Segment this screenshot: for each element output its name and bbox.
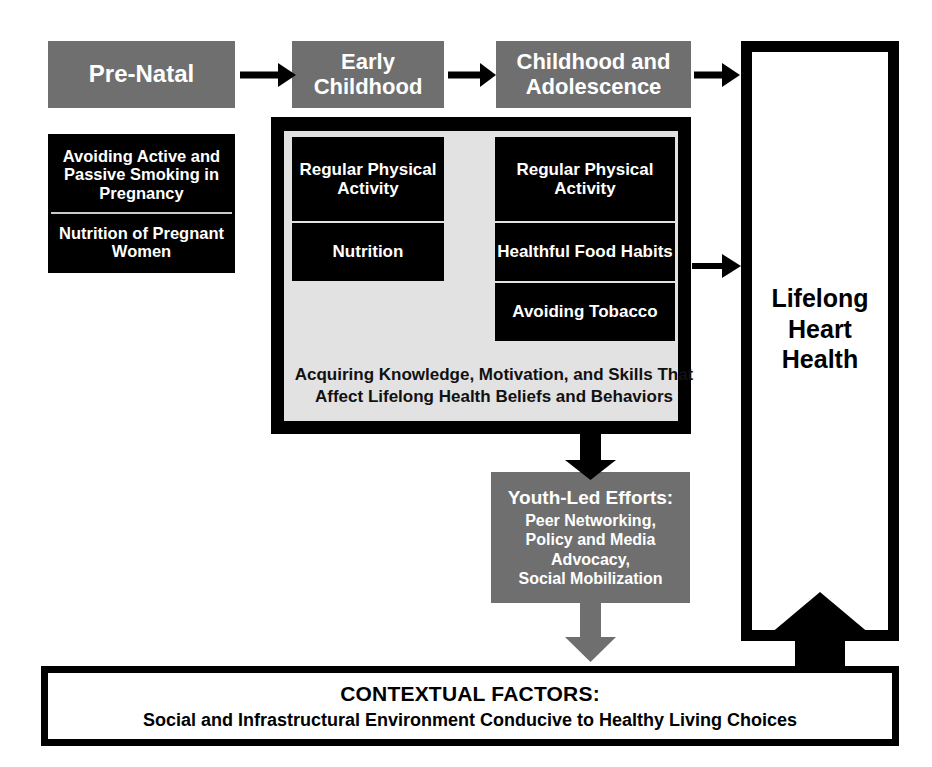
factor-label-avoid-smoking: Avoiding Active and Passive Smoking in P… [51,147,232,202]
lifelong-heart-health-box[interactable]: LifelongHeartHealth [741,41,899,641]
arrow-youth-to-context [565,601,616,662]
factor-box-ec-physical-activity[interactable]: Regular Physical Activity [292,137,444,221]
central-panel-inner: Regular Physical Activity Nutrition Regu… [284,131,678,421]
factor-label-nutrition-pregnant-women: Nutrition of Pregnant Women [51,224,232,261]
factor-box-ca-physical-activity[interactable]: Regular Physical Activity [495,137,675,221]
factor-label-ca-healthful-food-habits: Healthful Food Habits [497,242,673,261]
arrow-prenatal-to-early [240,63,296,87]
stage-label-prenatal: Pre-Natal [89,61,194,88]
factor-label-ec-physical-activity: Regular Physical Activity [292,160,444,199]
arrow-early-to-childhood [448,63,496,87]
stage-box-prenatal[interactable]: Pre-Natal [48,41,235,108]
youth-led-efforts-box[interactable]: Youth-Led Efforts: Peer Networking,Polic… [491,472,690,603]
factor-box-avoid-smoking[interactable]: Avoiding Active and Passive Smoking in P… [51,137,232,214]
contextual-factors-box[interactable]: CONTEXTUAL FACTORS: Social and Infrastru… [41,666,899,746]
lifelong-heart-health-label: LifelongHeartHealth [771,283,868,375]
panel-caption: Acquiring Knowledge, Motivation, and Ski… [294,364,694,407]
factor-box-nutrition-pregnant-women[interactable]: Nutrition of Pregnant Women [51,214,232,270]
arrow-childhood-to-lifelong [694,63,740,87]
factor-box-ec-nutrition[interactable]: Nutrition [292,223,444,281]
factor-label-ca-avoiding-tobacco: Avoiding Tobacco [512,302,657,321]
stage-label-early-childhood: EarlyChildhood [314,50,423,99]
stage-box-childhood-adolescence[interactable]: Childhood andAdolescence [496,41,691,108]
youth-led-efforts-body: Peer Networking,Policy and MediaAdvocacy… [518,511,662,588]
factor-box-ca-avoiding-tobacco[interactable]: Avoiding Tobacco [495,283,675,341]
prenatal-factor-group: Avoiding Active and Passive Smoking in P… [48,134,235,273]
stage-box-early-childhood[interactable]: EarlyChildhood [292,41,444,108]
stage-label-childhood-adolescence: Childhood andAdolescence [517,50,671,99]
factor-label-ca-physical-activity: Regular Physical Activity [495,160,675,199]
diagram-canvas: Pre-Natal EarlyChildhood Childhood andAd… [0,0,932,767]
arrow-panel-to-lifelong [692,254,741,278]
contextual-factors-subtitle: Social and Infrastructural Environment C… [143,710,797,731]
factor-box-ca-healthful-food-habits[interactable]: Healthful Food Habits [495,223,675,281]
contextual-factors-title: CONTEXTUAL FACTORS: [340,682,600,706]
factor-label-ec-nutrition: Nutrition [333,242,404,261]
central-behaviors-panel: Regular Physical Activity Nutrition Regu… [271,117,691,434]
youth-led-efforts-title: Youth-Led Efforts: [508,487,673,509]
